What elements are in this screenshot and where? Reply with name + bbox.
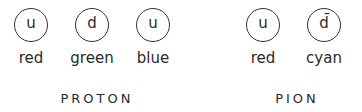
- quark-color-label: blue: [123, 51, 183, 66]
- quark-circle: u: [14, 8, 48, 42]
- quark-flavor: u: [26, 16, 36, 31]
- quark-flavor: u: [148, 16, 158, 31]
- quark-color-label: cyan: [294, 51, 354, 66]
- quark-circle: u: [136, 8, 170, 42]
- proton-label: PROTON: [52, 92, 142, 105]
- quark-color-label: red: [1, 51, 61, 66]
- quark-color-label: green: [62, 51, 122, 66]
- quark-flavor: d: [87, 16, 97, 31]
- quark-circle: d̄: [307, 8, 341, 42]
- quark-circle: u: [246, 8, 280, 42]
- quark-circle: d: [75, 8, 109, 42]
- quark-color-label: red: [233, 51, 293, 66]
- antiquark-flavor: d̄: [319, 16, 329, 31]
- pion-label: PION: [252, 92, 342, 105]
- quark-flavor: u: [258, 16, 268, 31]
